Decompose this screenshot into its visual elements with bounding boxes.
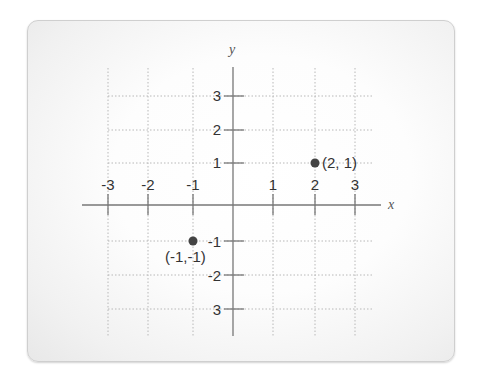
y-axis-ticks [224,96,244,309]
point-label: (2, 1) [322,154,357,171]
point-2-1 [311,159,320,168]
x-tick-label: 3 [351,176,359,193]
y-tick-label: 1 [213,154,221,171]
point-label: (-1,-1) [165,248,206,265]
y-tick-label: 3 [213,87,221,104]
x-tick-label: -1 [186,176,199,193]
coordinate-plane: -3 -2 -1 1 2 3 3 2 1 -1 -2 3 x y (2, 1) … [0,0,477,380]
x-tick-label: 2 [311,176,319,193]
y-tick-label: 3 [213,301,221,318]
x-axis-label: x [387,197,395,212]
point-neg1-neg1 [189,237,198,246]
y-axis-label: y [227,42,236,57]
x-tick-label: -3 [101,176,114,193]
x-tick-label: 1 [269,176,277,193]
grid-vertical-lines [108,68,355,336]
y-tick-label: -2 [208,267,221,284]
y-tick-label: -1 [208,233,221,250]
x-tick-label: -2 [141,176,154,193]
y-tick-label: 2 [213,121,221,138]
